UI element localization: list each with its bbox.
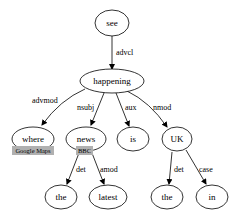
svg-text:is: is bbox=[130, 134, 137, 144]
node-UK: UK bbox=[162, 127, 192, 151]
edge-label-det: det bbox=[174, 165, 185, 174]
node-the-2: the bbox=[151, 185, 183, 209]
svg-text:the: the bbox=[56, 192, 67, 202]
edge-happening-news: nsubj bbox=[77, 93, 104, 125]
edge-news-the: det bbox=[67, 153, 87, 184]
edge-label-case: case bbox=[199, 165, 213, 174]
node-happening: happening bbox=[80, 69, 144, 93]
svg-text:see: see bbox=[106, 18, 118, 28]
tag-google-maps: Google Maps bbox=[12, 146, 54, 155]
svg-text:where: where bbox=[22, 134, 44, 144]
svg-text:news: news bbox=[77, 134, 96, 144]
svg-text:Google Maps: Google Maps bbox=[15, 147, 51, 154]
svg-text:happening: happening bbox=[93, 76, 131, 86]
svg-text:the: the bbox=[162, 192, 173, 202]
tag-bbc: BBC bbox=[76, 146, 93, 155]
node-latest: latest bbox=[89, 185, 127, 209]
edge-news-latest: amod bbox=[92, 153, 118, 184]
edge-label-det: det bbox=[76, 165, 87, 174]
node-see: see bbox=[95, 10, 129, 36]
edge-happening-is: aux bbox=[116, 93, 137, 126]
edge-label-advcl: advcl bbox=[116, 48, 134, 57]
edge-label-advmod: advmod bbox=[32, 96, 58, 105]
edge-label-amod: amod bbox=[100, 165, 118, 174]
node-is: is bbox=[117, 127, 149, 151]
edge-UK-in: case bbox=[186, 150, 213, 184]
node-in: in bbox=[196, 185, 228, 209]
edge-UK-the: det bbox=[169, 152, 185, 184]
dependency-tree-diagram: advcl advmod nsubj aux nmod det amod det… bbox=[0, 0, 244, 223]
svg-text:latest: latest bbox=[99, 192, 118, 202]
node-the-1: the bbox=[45, 185, 77, 209]
edge-label-nsubj: nsubj bbox=[77, 103, 94, 112]
edge-label-aux: aux bbox=[125, 103, 137, 112]
svg-text:BBC: BBC bbox=[78, 147, 91, 154]
svg-text:in: in bbox=[208, 192, 216, 202]
edge-label-nmod: nmod bbox=[153, 103, 171, 112]
edge-see-happening: advcl bbox=[112, 36, 134, 69]
svg-text:UK: UK bbox=[171, 134, 184, 144]
